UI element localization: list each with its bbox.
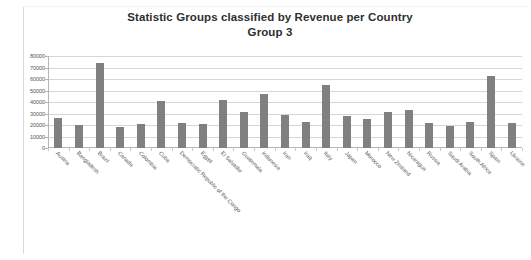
bar[interactable]: [425, 123, 433, 148]
bar-slot: [481, 56, 502, 148]
bar-slot: [295, 56, 316, 148]
bar-slot: [192, 56, 213, 148]
y-axis-tick-label: 60000: [16, 76, 45, 82]
y-axis-tick-label: 0: [16, 145, 45, 151]
bar-slot: [254, 56, 275, 148]
bar[interactable]: [405, 110, 413, 148]
y-axis-tick-label: 50000: [16, 88, 45, 94]
bar-slot: [357, 56, 378, 148]
bar-slot: [316, 56, 337, 148]
x-axis-tick-label: Canada: [117, 150, 135, 168]
chart-title: Statistic Groups classified by Revenue p…: [60, 10, 480, 40]
y-axis-tick-label: 10000: [16, 134, 45, 140]
bar[interactable]: [157, 101, 165, 148]
bar[interactable]: [446, 126, 454, 148]
bar[interactable]: [466, 122, 474, 148]
x-axis-tick-label: Morocco: [364, 150, 383, 169]
bar-slot: [151, 56, 172, 148]
bar[interactable]: [260, 94, 268, 148]
bar[interactable]: [322, 85, 330, 148]
x-axis-tick-label: Colombia: [138, 150, 159, 171]
bar[interactable]: [199, 124, 207, 148]
bar[interactable]: [363, 119, 371, 148]
x-axis-tick-label: Brazil: [96, 150, 110, 164]
y-axis-tick-label: 70000: [16, 65, 45, 71]
x-axis-tick-label: Ukraine: [508, 150, 526, 168]
x-axis-tick-label: Iraq: [302, 150, 313, 161]
bar[interactable]: [343, 116, 351, 148]
bar[interactable]: [54, 118, 62, 148]
bar-slot: [213, 56, 234, 148]
plot-area: [48, 56, 522, 148]
bar[interactable]: [302, 122, 310, 148]
bar[interactable]: [281, 115, 289, 148]
bar-slot: [172, 56, 193, 148]
chart-title-line-1: Statistic Groups classified by Revenue p…: [127, 11, 413, 23]
bar-slot: [233, 56, 254, 148]
x-axis-tick-label: Egypt: [199, 150, 213, 164]
x-axis-tick-label: Austria: [55, 150, 71, 166]
frame-top-divider: [23, 6, 528, 7]
y-axis-tick-label: 30000: [16, 111, 45, 117]
chart-container: Statistic Groups classified by Revenue p…: [0, 0, 531, 260]
x-axis-tick-label: Iran: [282, 150, 293, 161]
bar-slot: [130, 56, 151, 148]
x-axis-tick-label: Italy: [323, 150, 334, 161]
chart-title-line-2: Group 3: [60, 25, 480, 40]
bar-slot: [460, 56, 481, 148]
x-axis-tick: [522, 148, 523, 151]
bar-slot: [48, 56, 69, 148]
bar[interactable]: [137, 124, 145, 148]
bars-layer: [48, 56, 522, 148]
x-axis-tick-label: Indonesia: [261, 150, 282, 171]
bar-slot: [89, 56, 110, 148]
y-axis-tick-label: 80000: [16, 53, 45, 59]
bar-slot: [440, 56, 461, 148]
y-axis-tick-label: 20000: [16, 122, 45, 128]
bar[interactable]: [178, 123, 186, 148]
bar[interactable]: [240, 112, 248, 148]
bar[interactable]: [487, 76, 495, 148]
x-axis-tick-label: Spain: [488, 150, 502, 164]
x-axis-labels: AustriaBangladeshBrazilCanadaColombiaCub…: [48, 150, 522, 258]
bar[interactable]: [75, 125, 83, 148]
bar[interactable]: [508, 123, 516, 148]
bar-slot: [69, 56, 90, 148]
y-axis-labels: 8000070000600005000040000300002000010000…: [16, 50, 45, 154]
x-axis-tick-label: Nicaragua: [405, 150, 427, 172]
bar[interactable]: [116, 127, 124, 148]
bar-slot: [275, 56, 296, 148]
y-axis-tick-label: 40000: [16, 99, 45, 105]
bar[interactable]: [219, 100, 227, 148]
bar[interactable]: [96, 63, 104, 148]
x-axis-tick-label: Russia: [426, 150, 442, 166]
bar-slot: [398, 56, 419, 148]
bar-slot: [110, 56, 131, 148]
bar[interactable]: [384, 112, 392, 148]
bar-slot: [378, 56, 399, 148]
bar-slot: [337, 56, 358, 148]
bar-slot: [501, 56, 522, 148]
bar-slot: [419, 56, 440, 148]
x-axis-tick-label: Cuba: [158, 150, 172, 164]
x-axis-tick-label: Japan: [344, 150, 359, 165]
